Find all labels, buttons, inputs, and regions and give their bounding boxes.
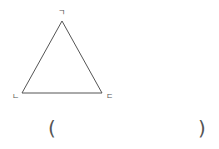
vertex-label-left: ㄴ: [12, 93, 19, 101]
close-parenthesis: ): [198, 116, 206, 140]
answer-row: ( ): [0, 114, 219, 142]
open-parenthesis: (: [48, 116, 56, 140]
vertex-label-top: ㄱ: [58, 9, 65, 17]
answer-blank[interactable]: [62, 118, 194, 138]
vertex-label-right: ㄷ: [106, 93, 113, 101]
